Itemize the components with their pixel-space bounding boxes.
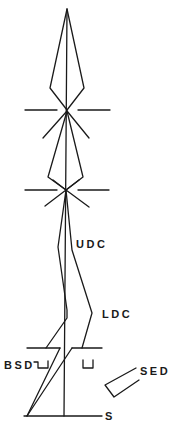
sed-label: SED bbox=[140, 365, 170, 377]
udc-path bbox=[46, 190, 67, 348]
specimen-label: S bbox=[105, 410, 115, 422]
ldc-path bbox=[66, 190, 92, 348]
udc-label: UDC bbox=[76, 238, 107, 250]
optical-axis bbox=[64, 9, 67, 416]
sed-detector bbox=[105, 368, 139, 397]
ldc-label: LDC bbox=[102, 308, 132, 320]
bsd-label: BSD bbox=[4, 359, 35, 371]
electron-column-diagram: UDC LDC BSD SED S bbox=[0, 0, 175, 429]
